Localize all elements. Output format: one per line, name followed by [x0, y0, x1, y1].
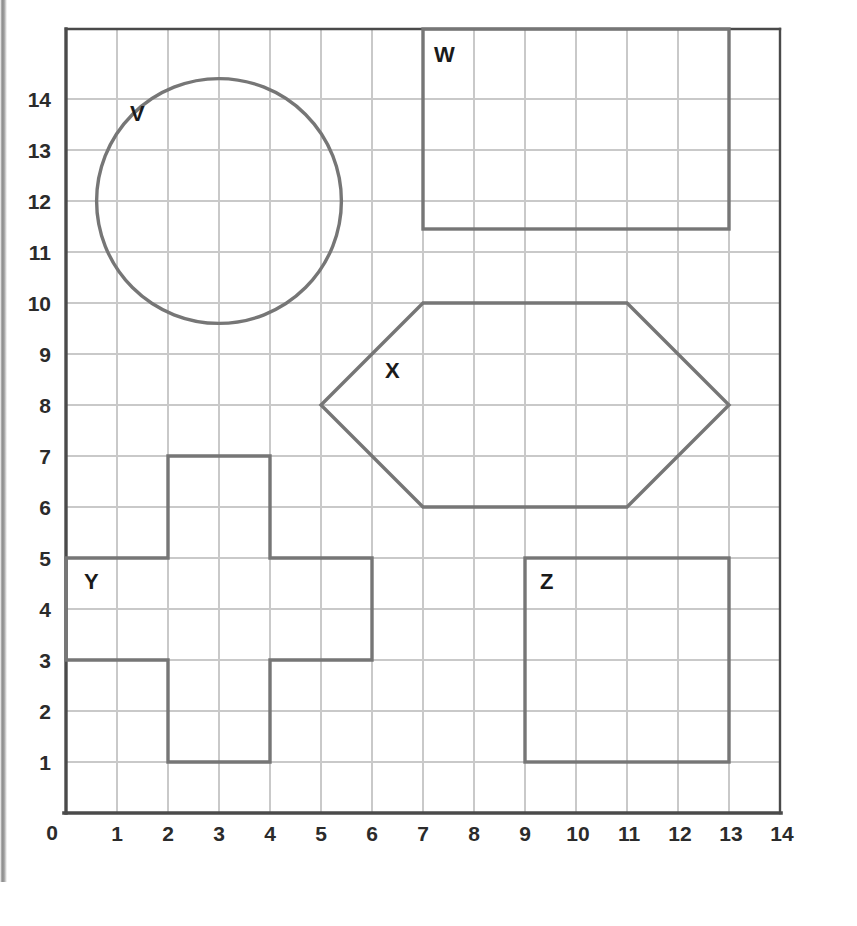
y-tick-label: 8 — [39, 394, 51, 417]
y-tick-label: 2 — [39, 700, 51, 723]
coordinate-grid-figure: V W X Y Z 0 1 2 3 4 5 6 — [0, 0, 857, 926]
y-tick-label: 10 — [28, 292, 51, 315]
x-tick-label: 12 — [668, 822, 691, 845]
y-tick-label: 6 — [39, 496, 51, 519]
y-tick-label: 1 — [39, 751, 51, 774]
x-tick-label: 9 — [519, 822, 531, 845]
shape-label-z: Z — [540, 569, 553, 594]
shape-label-v: V — [130, 101, 145, 126]
x-tick-label: 11 — [618, 822, 641, 845]
y-tick-label: 9 — [39, 343, 51, 366]
x-tick-label: 6 — [366, 822, 378, 845]
x-tick-label: 8 — [468, 822, 480, 845]
y-tick-label: 11 — [29, 241, 52, 264]
y-tick-label: 4 — [39, 598, 51, 621]
x-tick-label: 1 — [111, 822, 123, 845]
coordinate-plot-svg: V W X Y Z 0 1 2 3 4 5 6 — [0, 0, 857, 926]
y-tick-label: 7 — [39, 445, 51, 468]
y-axis-tick-labels: 1 2 3 4 5 6 7 8 9 10 11 12 13 14 — [28, 88, 52, 774]
y-tick-label: 12 — [28, 190, 51, 213]
shape-label-w: W — [434, 42, 455, 67]
shape-label-x: X — [385, 358, 400, 383]
x-axis-tick-labels: 0 1 2 3 4 5 6 7 8 9 10 11 12 13 14 — [46, 821, 794, 845]
x-tick-label: 7 — [417, 822, 429, 845]
y-tick-label: 5 — [39, 547, 51, 570]
x-tick-label: 4 — [264, 822, 276, 845]
y-tick-label: 3 — [39, 649, 51, 672]
y-tick-label: 14 — [28, 88, 52, 111]
x-tick-label: 5 — [315, 822, 327, 845]
x-tick-label: 13 — [719, 822, 742, 845]
shape-label-y: Y — [84, 569, 99, 594]
x-tick-label: 14 — [770, 822, 794, 845]
y-tick-label: 13 — [28, 139, 51, 162]
x-tick-label: 10 — [566, 822, 589, 845]
x-tick-label: 0 — [46, 821, 58, 844]
x-tick-label: 2 — [162, 822, 174, 845]
x-tick-label: 3 — [213, 822, 225, 845]
